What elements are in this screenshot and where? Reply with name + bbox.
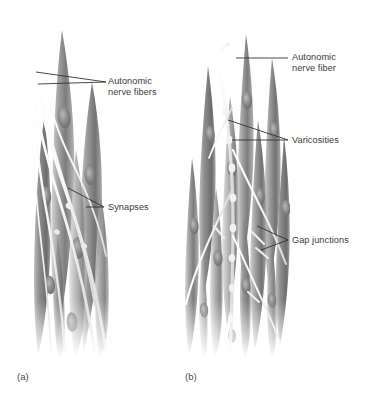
fade-overlay xyxy=(170,300,290,358)
varicosity xyxy=(229,254,235,262)
smooth-muscle-innervation-figure: Autonomicnerve fibers Synapses Autonomic… xyxy=(0,0,383,399)
label-autonomic-nerve-fiber: Autonomicnerve fiber xyxy=(292,52,336,74)
label-line-1: Varicosities xyxy=(292,135,339,145)
varicosity xyxy=(226,136,233,145)
label-gap-junctions: Gap junctions xyxy=(292,235,349,246)
fade-overlay xyxy=(16,300,128,358)
varicosity xyxy=(229,164,236,173)
label-varicosities: Varicosities xyxy=(292,135,339,146)
label-line-1: Gap junctions xyxy=(292,235,349,245)
label-line-1: Autonomic xyxy=(292,52,336,62)
varicosity xyxy=(230,224,237,232)
label-autonomic-nerve-fibers: Autonomicnerve fibers xyxy=(108,76,157,98)
label-line-1: Synapses xyxy=(108,202,149,212)
label-line-1: Autonomic xyxy=(108,76,152,86)
panel-letter-a: (a) xyxy=(17,371,29,382)
panel-letter-b: (b) xyxy=(185,371,197,382)
varicosity xyxy=(230,194,237,202)
varicosity xyxy=(223,108,230,117)
label-line-2: nerve fibers xyxy=(108,87,157,97)
label-line-2: nerve fiber xyxy=(292,63,336,73)
varicosity xyxy=(229,284,235,292)
label-synapses: Synapses xyxy=(108,202,149,213)
